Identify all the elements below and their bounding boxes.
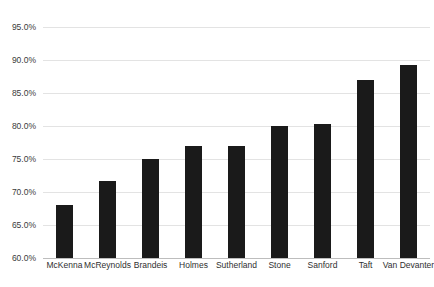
x-axis-tick-label: Taft [359, 261, 373, 270]
x-axis-tick-label: Brandeis [134, 261, 168, 270]
bar[interactable] [400, 65, 417, 258]
bar[interactable] [185, 146, 202, 258]
bar[interactable] [142, 159, 159, 258]
y-axis-tick-label: 80.0% [0, 122, 36, 131]
x-axis-labels: McKennaMcReynoldsBrandeisHolmesSutherlan… [43, 261, 430, 277]
bars-layer [43, 27, 430, 258]
axis-baseline [43, 258, 430, 259]
y-axis-tick-label: 90.0% [0, 56, 36, 65]
x-axis-tick-label: Stone [268, 261, 290, 270]
x-axis-tick-label: McKenna [47, 261, 83, 270]
x-axis-tick-label: Van Devanter [383, 261, 434, 270]
x-axis-tick-label: Sutherland [216, 261, 257, 270]
y-axis-tick-label: 70.0% [0, 188, 36, 197]
bar[interactable] [99, 181, 116, 258]
clipped-title-remnant [43, 0, 430, 2]
y-axis-tick-label: 95.0% [0, 23, 36, 32]
bar[interactable] [357, 80, 374, 258]
bar[interactable] [271, 126, 288, 258]
bar[interactable] [314, 124, 331, 258]
y-axis-tick-label: 75.0% [0, 155, 36, 164]
x-axis-tick-label: Sanford [308, 261, 338, 270]
x-axis-tick-label: Holmes [179, 261, 208, 270]
y-axis-tick-label: 60.0% [0, 254, 36, 263]
y-axis-tick-label: 65.0% [0, 221, 36, 230]
bar[interactable] [228, 146, 245, 258]
bar[interactable] [56, 205, 73, 258]
y-axis-tick-label: 85.0% [0, 89, 36, 98]
x-axis-tick-label: McReynolds [84, 261, 131, 270]
